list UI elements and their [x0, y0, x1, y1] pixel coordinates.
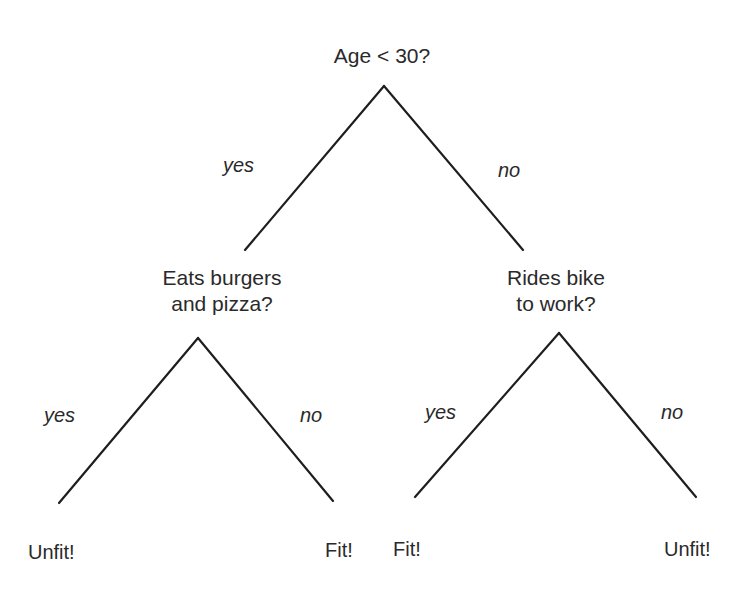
- tree-edges: [0, 0, 749, 593]
- left-question-line2: and pizza?: [162, 291, 281, 317]
- right-question-line2: to work?: [507, 291, 605, 317]
- left-no-label: no: [300, 403, 322, 427]
- right-question-line1: Rides bike: [507, 265, 605, 291]
- left-yes-leaf: Unfit!: [28, 540, 75, 564]
- left-no-leaf: Fit!: [325, 538, 353, 562]
- decision-tree-diagram: Age < 30? yes no Eats burgers and pizza?…: [0, 0, 749, 593]
- right-yes-leaf: Fit!: [393, 537, 421, 561]
- left-question: Eats burgers and pizza?: [162, 265, 281, 317]
- right-no-label: no: [661, 400, 683, 424]
- root-yes-label: yes: [223, 153, 254, 177]
- right-no-leaf: Unfit!: [664, 537, 711, 561]
- root-question: Age < 30?: [334, 43, 430, 69]
- left-yes-label: yes: [44, 403, 75, 427]
- left-question-line1: Eats burgers: [162, 265, 281, 291]
- root-no-label: no: [498, 158, 520, 182]
- edge-left-yes: [59, 338, 198, 503]
- root-question-text: Age < 30?: [334, 43, 430, 69]
- edge-root-yes: [245, 86, 384, 250]
- right-yes-label: yes: [425, 400, 456, 424]
- right-question: Rides bike to work?: [507, 265, 605, 317]
